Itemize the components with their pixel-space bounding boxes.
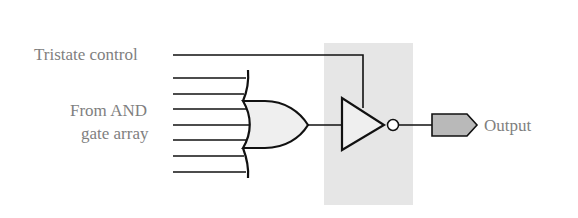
output-pin-icon [432,114,477,136]
inputs-label-line2: gate array [81,124,148,144]
inputs-label-line1: From AND [70,101,147,121]
or-input-wires [173,78,249,172]
or-gate-icon [243,101,308,148]
diagram-canvas: Tristate control From AND gate array Out… [0,0,578,218]
output-label: Output [484,116,531,136]
inversion-bubble-icon [388,120,399,131]
or-input-bar [243,70,248,178]
tristate-control-label: Tristate control [34,45,138,65]
